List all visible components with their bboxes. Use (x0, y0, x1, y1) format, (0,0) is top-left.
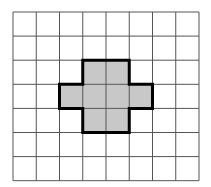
shaded-cell (106, 84, 129, 108)
grid-lines (13, 12, 199, 181)
shaded-cell (60, 84, 83, 108)
grid-diagram (0, 0, 211, 187)
shaded-cell (106, 60, 129, 84)
shaded-cell (83, 84, 106, 108)
shaded-cell (129, 84, 152, 108)
shaded-cell (83, 108, 106, 132)
shaded-cell (106, 108, 129, 132)
shaded-cell (83, 60, 106, 84)
